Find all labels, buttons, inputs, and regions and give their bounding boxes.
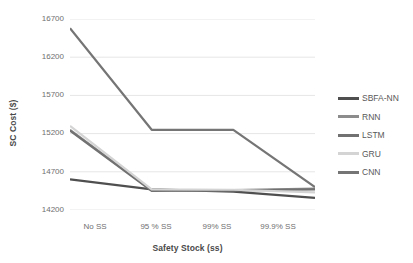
legend: SBFA-NN RNN LSTM GRU CNN xyxy=(338,89,413,182)
plot-area xyxy=(70,19,315,210)
x-tick-label: 99% SS xyxy=(182,222,252,231)
legend-swatch-icon xyxy=(338,115,359,118)
legend-label: RNN xyxy=(362,112,380,122)
legend-swatch-icon xyxy=(338,152,359,155)
series-line-cnn xyxy=(70,28,315,187)
legend-swatch-icon xyxy=(338,97,359,100)
legend-item-sbfa-nn[interactable]: SBFA-NN xyxy=(338,89,413,108)
series-lines xyxy=(70,28,315,198)
y-tick-label: 16700 xyxy=(22,14,64,23)
legend-item-cnn[interactable]: CNN xyxy=(338,163,413,182)
legend-swatch-icon xyxy=(338,171,359,174)
legend-label: CNN xyxy=(362,167,380,177)
y-tick-label: 16200 xyxy=(22,52,64,61)
legend-label: LSTM xyxy=(362,130,385,140)
legend-label: GRU xyxy=(362,149,381,159)
legend-label: SBFA-NN xyxy=(362,93,399,103)
plot-svg xyxy=(70,19,315,210)
y-axis-title: SC Cost ($) xyxy=(8,83,18,163)
legend-swatch-icon xyxy=(338,134,359,137)
x-tick-label: 95 % SS xyxy=(121,222,191,231)
legend-item-lstm[interactable]: LSTM xyxy=(338,126,413,145)
y-tick-label: 14200 xyxy=(22,205,64,214)
gridlines xyxy=(70,19,315,210)
legend-item-gru[interactable]: GRU xyxy=(338,145,413,164)
x-axis-title: Safety Stock (ss) xyxy=(60,243,315,253)
series-line-gru xyxy=(70,126,315,192)
y-tick-label: 14700 xyxy=(22,167,64,176)
y-tick-label: 15200 xyxy=(22,128,64,137)
x-tick-label: 99.9% SS xyxy=(243,222,313,231)
legend-item-rnn[interactable]: RNN xyxy=(338,108,413,127)
y-tick-label: 15700 xyxy=(22,90,64,99)
line-chart: SC Cost ($) Safety Stock (ss) 16700 1620… xyxy=(0,0,413,263)
x-tick-label: No SS xyxy=(60,222,130,231)
